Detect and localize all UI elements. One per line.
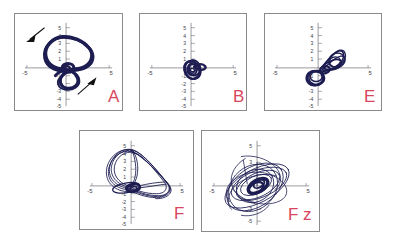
svg-text:5: 5 [306,188,310,194]
trajectory-f [106,149,171,198]
svg-text:-5: -5 [209,188,215,194]
svg-text:3: 3 [249,159,252,165]
trajectory-b [184,60,206,79]
svg-text:2: 2 [58,48,61,54]
panel-e-label: E [364,88,375,105]
svg-text:-5: -5 [22,70,28,76]
svg-text:5: 5 [233,70,237,76]
svg-text:-4: -4 [122,214,127,220]
svg-text:1: 1 [183,56,186,62]
panel-f-label: F [174,205,184,222]
svg-text:-2: -2 [182,81,187,87]
svg-text:-3: -3 [309,88,314,94]
svg-text:5: 5 [310,25,313,31]
svg-text:3: 3 [123,158,126,164]
svg-text:-3: -3 [122,206,127,212]
svg-text:5: 5 [368,70,372,76]
svg-text:-4: -4 [309,96,314,102]
svg-text:-5: -5 [147,70,153,76]
y-tick-labels: 5 4 3 2 1 -1 -2 -3 -4 -5 [309,25,314,109]
panel-b-plot: 5 4 3 2 1 -1 -2 -3 -4 -5 -5 5 [140,14,246,110]
svg-text:-5: -5 [122,221,127,227]
svg-text:-2: -2 [122,199,127,205]
svg-text:1: 1 [310,56,313,62]
svg-text:2: 2 [123,166,126,172]
svg-text:3: 3 [183,40,186,46]
svg-text:1: 1 [123,174,126,180]
svg-text:3: 3 [58,40,61,46]
panel-b-label: B [233,88,244,105]
svg-text:2: 2 [310,48,313,54]
svg-text:-4: -4 [182,96,187,102]
svg-text:4: 4 [310,33,313,39]
panel-a: 5 4 3 2 1 -1 -2 -3 -4 -5 -5 5 [14,13,123,111]
svg-text:-5: -5 [309,103,314,109]
svg-text:5: 5 [249,143,252,149]
svg-text:-3: -3 [182,88,187,94]
axis-group [275,23,371,106]
svg-text:-3: -3 [57,88,62,94]
arrow-upper-left-icon [28,28,45,42]
svg-text:-5: -5 [182,103,187,109]
figure-container: 5 4 3 2 1 -1 -2 -3 -4 -5 -5 5 [0,0,396,247]
panel-a-plot: 5 4 3 2 1 -1 -2 -3 -4 -5 -5 5 [15,14,122,110]
svg-text:4: 4 [183,33,186,39]
svg-text:2: 2 [183,48,186,54]
svg-text:3: 3 [310,40,313,46]
panel-b: 5 4 3 2 1 -1 -2 -3 -4 -5 -5 5 [139,13,247,111]
svg-text:5: 5 [123,143,126,149]
arrow-lower-right-icon [78,79,96,95]
svg-text:5: 5 [109,70,113,76]
svg-text:5: 5 [180,188,184,194]
panel-fz-label: F z [288,206,312,223]
svg-text:1: 1 [58,56,61,62]
panel-a-label: A [108,88,119,105]
svg-text:5: 5 [58,25,61,31]
svg-text:-5: -5 [87,188,93,194]
svg-text:-5: -5 [272,70,278,76]
svg-text:-4: -4 [57,96,62,102]
svg-text:-5: -5 [248,218,253,224]
svg-text:-5: -5 [57,103,62,109]
svg-text:5: 5 [183,25,186,31]
trajectory-a [44,36,93,89]
